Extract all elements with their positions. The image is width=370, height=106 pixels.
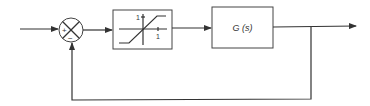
saturation-block: 1 1 — [113, 10, 172, 49]
plus-sign: + — [62, 26, 67, 35]
output-arrow — [273, 26, 356, 27]
saturation-x-label: 1 — [156, 33, 160, 40]
saturation-y-label: 1 — [136, 14, 140, 21]
summing-junction: + − — [59, 18, 83, 43]
block-diagram: + − 1 1 G (s) — [0, 0, 370, 106]
plant-label: G (s) — [233, 23, 253, 33]
feedback-path — [72, 27, 311, 100]
plant-block: G (s) — [212, 7, 273, 48]
minus-sign: − — [68, 34, 73, 43]
